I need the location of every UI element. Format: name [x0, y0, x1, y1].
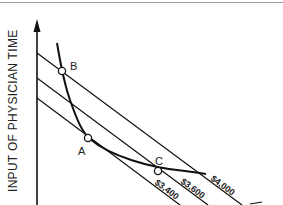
point-a-label: A: [78, 146, 85, 157]
point-a-marker: [84, 134, 91, 141]
y-axis-arrow-icon: [34, 19, 41, 32]
x-axis-arrow-icon: [250, 202, 262, 204]
isoquant-isocost-diagram: [0, 0, 283, 205]
y-axis-label: INPUT OF PHYSICIAN TIME: [6, 42, 20, 192]
point-c-label: C: [155, 156, 163, 167]
point-c-marker: [154, 167, 161, 174]
point-b-label: B: [70, 61, 77, 72]
point-b-marker: [58, 67, 65, 74]
